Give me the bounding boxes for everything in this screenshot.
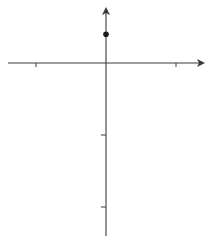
vertex-point <box>103 31 109 37</box>
parabola-chart <box>0 0 208 243</box>
